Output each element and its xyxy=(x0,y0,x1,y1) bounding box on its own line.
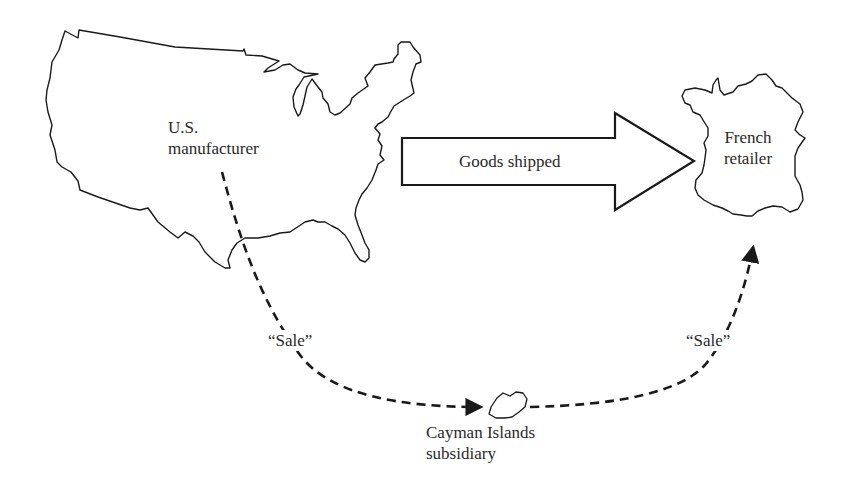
ky-label-line2: subsidiary xyxy=(426,443,535,464)
us-label-line2: manufacturer xyxy=(168,138,259,159)
us-label-line1: U.S. xyxy=(168,117,259,138)
sale-label-left: “Sale” xyxy=(266,330,314,351)
cayman-subsidiary-label: Cayman Islands subsidiary xyxy=(426,422,535,464)
sale-label-right: “Sale” xyxy=(684,330,732,351)
fr-label-line2: retailer xyxy=(718,148,778,169)
sale-flow-cayman-to-france xyxy=(530,248,753,407)
fr-label-line1: French xyxy=(718,127,778,148)
french-retailer-label: French retailer xyxy=(718,127,778,169)
cayman-island-outline xyxy=(489,392,527,418)
ky-label-line1: Cayman Islands xyxy=(426,422,535,443)
us-manufacturer-label: U.S. manufacturer xyxy=(168,117,259,159)
diagram-canvas xyxy=(0,0,856,486)
goods-shipped-label: Goods shipped xyxy=(459,151,561,172)
